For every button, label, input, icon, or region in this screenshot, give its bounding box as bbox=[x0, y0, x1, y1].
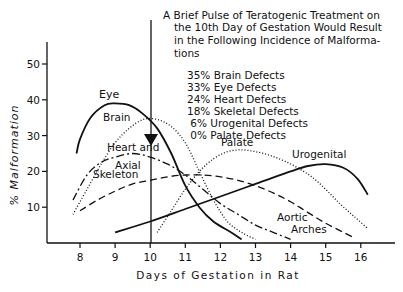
y-tick-label: 20 bbox=[27, 165, 40, 177]
stat-heart: 24% Heart Defects bbox=[187, 93, 286, 105]
label-eye: Eye bbox=[99, 88, 119, 101]
label-urogenital: Urogenital bbox=[292, 148, 346, 160]
label-brain: Brain bbox=[103, 111, 131, 123]
x-tick-label: 16 bbox=[354, 251, 368, 263]
x-tick-label: 9 bbox=[112, 251, 119, 263]
curve-heart-and-aortic-arches bbox=[73, 154, 291, 240]
annotation-line-1: A Brief Pulse of Teratogenic Treatment o… bbox=[163, 9, 380, 21]
label-arches: Arches bbox=[291, 223, 327, 235]
y-axis-label: % Malformation bbox=[8, 105, 21, 206]
y-tick-label: 10 bbox=[27, 201, 40, 213]
x-tick-label: 15 bbox=[319, 251, 332, 263]
annotation-line-4: tions bbox=[174, 47, 200, 59]
annotation-line-3: in the Following Incidence of Malforma- bbox=[174, 34, 381, 46]
label-skeleton: Skeleton bbox=[93, 168, 138, 180]
stat-urogenital: 6% Urogenital Defects bbox=[187, 117, 308, 129]
x-tick-label: 13 bbox=[249, 251, 262, 263]
x-tick-label: 12 bbox=[214, 251, 227, 263]
x-tick-label: 11 bbox=[179, 251, 192, 263]
x-tick-label: 10 bbox=[144, 251, 157, 263]
x-tick-label: 14 bbox=[284, 251, 298, 263]
teratogenic-malformation-chart: 89101112131415161020304050 Eye Brain Hea… bbox=[0, 0, 403, 292]
annotation-line-2: the 10th Day of Gestation Would Result bbox=[174, 21, 382, 33]
annotation-block: A Brief Pulse of Teratogenic Treatment o… bbox=[163, 9, 382, 141]
label-aortic: Aortic bbox=[277, 211, 308, 223]
day-10-arrow bbox=[144, 20, 158, 243]
stat-palate: 0% Palate Defects bbox=[187, 129, 286, 141]
stat-eye: 33% Eye Defects bbox=[187, 81, 276, 93]
stat-skeletal: 18% Skeletal Defects bbox=[187, 105, 299, 117]
stat-brain: 35% Brain Defects bbox=[187, 69, 285, 81]
y-tick-label: 30 bbox=[27, 130, 40, 142]
y-tick-label: 50 bbox=[27, 58, 40, 70]
x-tick-label: 8 bbox=[77, 251, 84, 263]
y-tick-label: 40 bbox=[27, 94, 40, 106]
curve-urogenital bbox=[115, 164, 368, 232]
x-axis-label: Days of Gestation in Rat bbox=[136, 269, 300, 281]
